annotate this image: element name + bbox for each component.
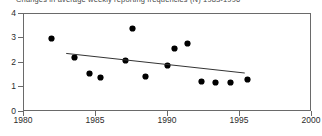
chart-container: Changes in average weekly reporting freq… (0, 0, 322, 136)
trend-line (66, 53, 245, 73)
trendline-layer (0, 0, 322, 136)
